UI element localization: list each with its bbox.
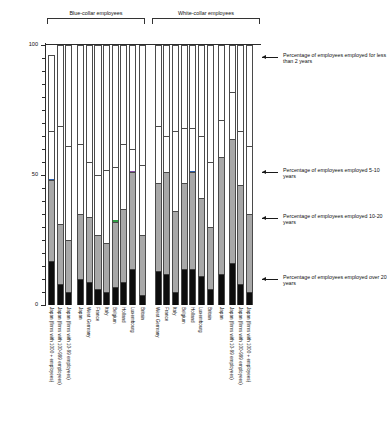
x-axis-label: Luxembourg <box>198 307 203 333</box>
table-row[interactable] <box>155 45 162 305</box>
segment-10-20-years <box>207 227 214 289</box>
table-row[interactable] <box>94 45 101 305</box>
table-row[interactable] <box>163 45 170 305</box>
table-row[interactable] <box>48 55 55 305</box>
blue-collar-group-text: Blue-collar employees <box>69 10 122 16</box>
segment-less-than-2-years <box>94 45 101 175</box>
segment-5-10-years <box>77 144 84 214</box>
segment-5-10-years <box>112 167 119 222</box>
y-tick <box>41 175 46 176</box>
segment-10-20-years <box>77 214 84 279</box>
table-row[interactable] <box>246 45 253 305</box>
y-tick <box>42 188 46 189</box>
segment-5-10-years <box>207 162 214 227</box>
table-row[interactable] <box>198 45 205 305</box>
segment-5-10-years <box>218 120 225 156</box>
segment-10-20-years <box>94 235 101 290</box>
segment-over-20-years <box>86 282 93 305</box>
segment-over-20-years <box>120 282 127 305</box>
segment-less-than-2-years <box>246 45 253 146</box>
segment-less-than-2-years <box>155 45 162 126</box>
segment-less-than-2-years <box>181 45 188 128</box>
segment-less-than-2-years <box>163 45 170 136</box>
segment-5-10-years <box>129 149 136 172</box>
x-axis-label: Japan (firms with 100-999 employees) <box>238 307 243 385</box>
table-row[interactable] <box>189 45 196 305</box>
x-axis-label: Belgium <box>181 307 186 324</box>
table-row[interactable] <box>181 45 188 305</box>
segment-10-20-years <box>198 198 205 276</box>
segment-10-20-years <box>172 211 179 292</box>
segment-5-10-years <box>120 144 127 209</box>
y-tick <box>42 201 46 202</box>
segment-over-20-years <box>129 269 136 305</box>
table-row[interactable] <box>229 45 236 305</box>
segment-less-than-2-years <box>139 45 146 165</box>
segment-over-20-years <box>189 269 196 305</box>
segment-10-20-years <box>237 185 244 284</box>
segment-accent-marker <box>112 220 119 222</box>
y-tick <box>42 214 46 215</box>
x-axis-label: Japan (firms with 1000 + employees) <box>48 307 53 382</box>
segment-over-20-years <box>112 287 119 305</box>
segment-over-20-years <box>229 263 236 305</box>
segment-over-20-years <box>57 284 64 305</box>
segment-5-10-years <box>48 131 55 180</box>
segment-over-20-years <box>65 292 72 305</box>
segment-10-20-years <box>103 243 110 292</box>
segment-10-20-years <box>189 172 196 268</box>
table-row[interactable] <box>129 45 136 305</box>
table-row[interactable] <box>139 45 146 305</box>
y-tick <box>42 110 46 111</box>
segment-less-than-2-years <box>207 45 214 162</box>
segment-5-10-years <box>198 136 205 198</box>
segment-less-than-2-years <box>77 45 84 144</box>
segment-less-than-2-years <box>189 45 196 128</box>
table-row[interactable] <box>77 45 84 305</box>
y-tick <box>41 305 46 306</box>
annotation-arrow-2 <box>262 172 278 173</box>
table-row[interactable] <box>237 45 244 305</box>
segment-5-10-years <box>65 146 72 240</box>
segment-over-20-years <box>139 295 146 305</box>
segment-over-20-years <box>198 276 205 305</box>
segment-10-20-years <box>163 172 170 273</box>
annotation-less-than-2-years: Percentage of employees employed for les… <box>283 52 387 64</box>
y-tick-label-50: 50 <box>20 171 38 177</box>
segment-5-10-years <box>237 131 244 186</box>
segment-10-20-years <box>229 139 236 264</box>
segment-5-10-years <box>94 175 101 235</box>
x-axis-label: Italy <box>172 307 177 315</box>
segment-less-than-2-years <box>103 45 110 170</box>
x-axis-label: Japan (firms with 1000 + employees) <box>246 307 251 382</box>
table-row[interactable] <box>112 45 119 305</box>
segment-10-20-years <box>155 183 162 271</box>
segment-5-10-years <box>57 126 64 225</box>
white-collar-group-label: White-collar employees <box>172 10 240 16</box>
segment-over-20-years <box>218 274 225 305</box>
segment-less-than-2-years <box>48 55 55 130</box>
table-row[interactable] <box>65 45 72 305</box>
x-axis-label: Britain <box>207 307 212 320</box>
x-axis-label: Holland <box>190 307 195 323</box>
segment-10-20-years <box>57 224 64 284</box>
table-row[interactable] <box>86 45 93 305</box>
y-tick <box>42 240 46 241</box>
white-collar-bracket <box>152 18 260 24</box>
table-row[interactable] <box>172 45 179 305</box>
segment-over-20-years <box>237 284 244 305</box>
table-row[interactable] <box>103 45 110 305</box>
segment-accent-marker <box>48 179 55 181</box>
table-row[interactable] <box>57 45 64 305</box>
table-row[interactable] <box>218 45 225 305</box>
segment-accent-marker <box>129 171 136 173</box>
table-row[interactable] <box>120 45 127 305</box>
table-row[interactable] <box>207 45 214 305</box>
annotation-arrow-3 <box>262 218 278 219</box>
y-tick <box>42 58 46 59</box>
segment-5-10-years <box>139 165 146 235</box>
y-tick <box>42 84 46 85</box>
segment-5-10-years <box>246 146 253 214</box>
plot-area <box>46 45 260 305</box>
